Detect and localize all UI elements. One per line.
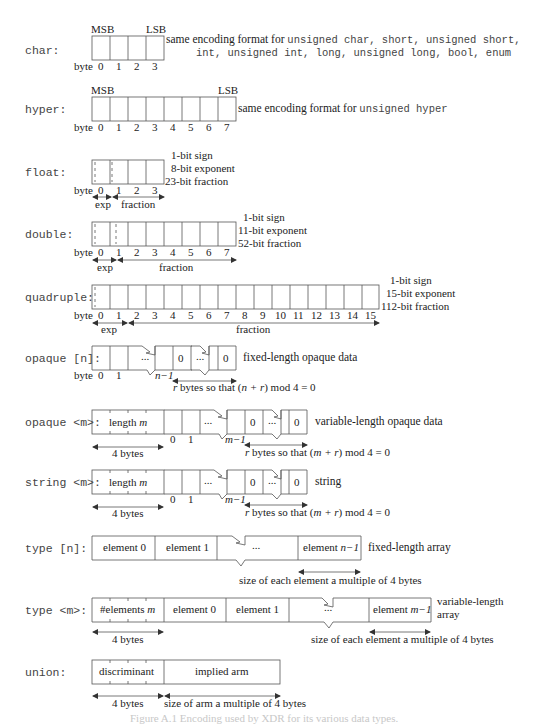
float-byte-0: 0 [98,184,104,196]
quadruple-byte-label: byte [74,309,93,321]
opaque-var-label: opaque <m>: [25,416,101,429]
opaque-var-description: variable-length opaque data [315,415,443,427]
array-fixed-element-0: element 0 [103,541,146,553]
float-byte-label: byte [74,184,93,196]
array-fixed-description: fixed-length array [368,541,451,553]
float-exp-label: exp [95,198,111,210]
char-desc-types-1: unsigned char, short, unsigned short, [287,34,520,46]
array-var-element-last: element m−1 [373,603,431,615]
double-byte-3: 3 [152,246,158,258]
opaque-var-byte-0: 0 [170,433,176,445]
element-var: m−1 [411,603,432,615]
pad-var: r [173,381,177,393]
quadruple-note-fraction: 112-bit fraction [381,300,449,312]
double-byte-1: 1 [116,246,122,258]
string-zero-1: 0 [250,476,256,488]
union-discriminant-cell: discriminant [99,665,154,677]
hyper-desc-type: unsigned hyper [359,103,447,115]
double-byte-0: 0 [98,246,104,258]
opaque-var-zero-1: 0 [250,416,256,428]
quadruple-byte-14: 14 [347,309,358,321]
string-zero-2: 0 [294,476,300,488]
quadruple-byte-15: 15 [365,309,376,321]
hyper-label: hyper: [25,103,66,116]
double-note-fraction: 52-bit fraction [238,237,301,249]
quadruple-byte-3: 3 [152,309,158,321]
quadruple-byte-11: 11 [293,309,304,321]
double-label: double: [25,228,73,241]
quadruple-byte-13: 13 [329,309,340,321]
char-byte-3: 3 [152,60,158,72]
float-note-fraction: 23-bit fraction [165,175,228,187]
char-byte-label: byte [74,60,93,72]
pad-post: ) mod 4 = 0 [339,506,390,518]
quadruple-note-exponent: 15-bit exponent [386,287,455,299]
pad-post: ) mod 4 = 0 [264,381,315,393]
array-var-4bytes: 4 bytes [112,633,143,645]
hyper-byte-1: 1 [116,121,122,133]
array-fixed-size-note: size of each element a multiple of 4 byt… [239,574,422,586]
hyper-byte-4: 4 [170,121,176,133]
quadruple-exp-label: exp [101,323,117,335]
union-size-note: size of arm a multiple of 4 bytes [164,697,306,709]
double-note-exponent: 11-bit exponent [238,224,307,236]
quadruple-byte-6: 6 [206,309,212,321]
char-desc-prefix: same encoding format for [166,33,287,45]
pad-post: ) mod 4 = 0 [339,446,390,458]
hyper-desc-prefix: same encoding format for [238,102,359,114]
char-byte-2: 2 [134,60,140,72]
double-byte-7: 7 [224,246,230,258]
element-text: element [303,541,341,553]
array-var-description-line2: array [437,608,460,620]
quadruple-note-sign: 1-bit sign [390,274,432,286]
hyper-lsb-label: LSB [218,84,238,96]
string-byte-0: 0 [170,493,176,505]
array-var-element-1: element 1 [236,603,279,615]
length-var: m [139,416,147,428]
quadruple-byte-0: 0 [98,309,104,321]
opaque-fixed-padding-note: rr bytes so that ( bytes so that (n + r)… [173,381,316,393]
quadruple-byte-12: 12 [311,309,322,321]
float-fraction-label: fraction [121,198,155,210]
double-byte-6: 6 [206,246,212,258]
length-var: m [139,476,147,488]
string-ellipsis-1: ... [204,474,212,486]
string-label: string <m>: [25,476,101,489]
element-var: n−1 [341,541,359,553]
opaque-fixed-byte-n-1: n−1 [155,369,173,381]
union-implied-arm-cell: implied arm [195,665,248,677]
element-text: element [373,603,411,615]
array-fixed-ellipsis: ... [252,539,260,551]
double-box [92,222,236,260]
hyper-byte-7: 7 [224,121,230,133]
double-byte-2: 2 [134,246,140,258]
hyper-box [92,97,236,121]
quadruple-byte-10: 10 [275,309,286,321]
float-note-sign: 1-bit sign [171,149,213,161]
char-description-line1: same encoding format for unsigned char, … [166,33,521,46]
opaque-var-ellipsis-2: ... [268,414,276,426]
pad-expr: n + r [241,381,264,393]
array-fixed-element-1: element 1 [166,541,209,553]
length-text: length [109,416,139,428]
opaque-fixed-byte-0: 0 [98,369,104,381]
quadruple-byte-4: 4 [170,309,176,321]
string-4bytes: 4 bytes [112,507,143,519]
float-byte-2: 2 [134,184,140,196]
quadruple-fraction-label: fraction [236,323,270,335]
float-note-exponent: 8-bit exponent [171,162,235,174]
opaque-fixed-description: fixed-length opaque data [243,351,357,363]
pad-expr: m + r [313,446,338,458]
union-4bytes: 4 bytes [112,697,143,709]
pad-var: r [245,446,249,458]
double-fraction-label: fraction [159,261,193,273]
figure-caption: Figure A.1 Encoding used by XDR for its … [130,712,398,724]
hyper-description: same encoding format for unsigned hyper [238,102,448,115]
opaque-var-byte-1: 1 [188,433,194,445]
double-note-sign: 1-bit sign [243,211,285,223]
array-fixed-element-last: element n−1 [303,541,359,553]
quadruple-byte-2: 2 [134,309,140,321]
double-exp-label: exp [97,261,113,273]
char-box [92,36,164,60]
array-var-size-note: size of each element a multiple of 4 byt… [311,633,494,645]
